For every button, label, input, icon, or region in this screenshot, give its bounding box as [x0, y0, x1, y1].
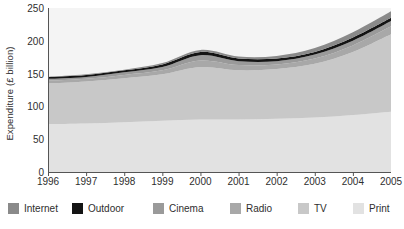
x-tick-label: 1998 — [113, 176, 135, 187]
y-tick-label: 250 — [18, 3, 44, 14]
legend-swatch-icon — [230, 203, 241, 214]
x-tick-label: 2002 — [266, 176, 288, 187]
x-tick-label: 2004 — [342, 176, 364, 187]
y-tick-label: 50 — [18, 134, 44, 145]
x-axis-tick-labels: 1996199719981999200020012002200320042005 — [48, 176, 391, 192]
y-axis-title-text: Expenditure (£ billion) — [4, 46, 15, 140]
legend-swatch-icon — [72, 203, 83, 214]
y-tick-label: 100 — [18, 101, 44, 112]
stacked-area-svg — [48, 8, 391, 172]
x-tick-label: 2003 — [304, 176, 326, 187]
x-tick-label: 1999 — [151, 176, 173, 187]
plot-area — [48, 8, 391, 172]
legend-swatch-icon — [353, 203, 364, 214]
legend-item-tv[interactable]: TV — [298, 199, 327, 217]
legend-item-radio[interactable]: Radio — [230, 199, 272, 217]
x-tick-label: 1997 — [75, 176, 97, 187]
chart-legend: InternetOutdoorCinemaRadioTVPrint — [8, 199, 400, 221]
legend-label: Cinema — [169, 203, 203, 214]
legend-label: Print — [369, 203, 390, 214]
legend-item-outdoor[interactable]: Outdoor — [72, 199, 124, 217]
x-tick-label: 2005 — [380, 176, 402, 187]
legend-swatch-icon — [8, 203, 19, 214]
legend-item-print[interactable]: Print — [353, 199, 390, 217]
x-tick-label: 1996 — [37, 176, 59, 187]
stacked-area-chart-figure: Expenditure (£ billion) 250200150100500 … — [0, 0, 404, 229]
y-tick-label: 200 — [18, 35, 44, 46]
legend-item-cinema[interactable]: Cinema — [153, 199, 203, 217]
x-tick-label: 2001 — [227, 176, 249, 187]
legend-swatch-icon — [153, 203, 164, 214]
legend-label: TV — [314, 203, 327, 214]
y-tick-label: 150 — [18, 68, 44, 79]
legend-label: Radio — [246, 203, 272, 214]
legend-swatch-icon — [298, 203, 309, 214]
y-axis-tick-labels: 250200150100500 — [16, 0, 44, 186]
legend-label: Outdoor — [88, 203, 124, 214]
legend-item-internet[interactable]: Internet — [8, 199, 58, 217]
x-tick-label: 2000 — [189, 176, 211, 187]
legend-label: Internet — [24, 203, 58, 214]
